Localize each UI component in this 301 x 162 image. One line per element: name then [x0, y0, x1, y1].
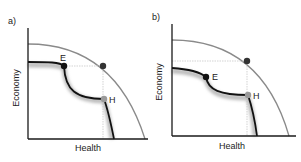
panel-b: b) E H Health Economy	[152, 12, 296, 151]
point-H	[245, 92, 251, 98]
x-axis-label: Health	[75, 143, 101, 153]
curve-shadow	[28, 65, 112, 139]
y-axis-label: Economy	[154, 63, 164, 101]
point-H-label: H	[253, 91, 260, 101]
point-E	[203, 74, 209, 80]
panel-a: a) E H Health Economy	[8, 16, 148, 153]
y-axis-label: Economy	[11, 69, 21, 107]
panel-a-label: a)	[8, 16, 16, 26]
point-H	[101, 96, 107, 102]
point-H-label: H	[109, 95, 116, 105]
x-axis-label: Health	[219, 141, 245, 151]
frontier-curve	[172, 40, 289, 136]
point-target	[244, 58, 250, 64]
diagram-canvas: a) E H Health Economy b)	[0, 0, 301, 162]
point-target	[100, 63, 106, 69]
frontier-curve	[28, 44, 145, 139]
point-E	[61, 63, 67, 69]
panel-b-label: b)	[152, 12, 160, 22]
point-E-label: E	[212, 72, 218, 82]
point-E-label: E	[60, 53, 66, 63]
